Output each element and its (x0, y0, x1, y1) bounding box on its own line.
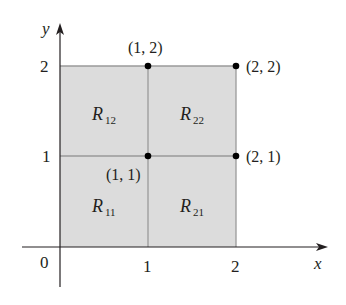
svg-text:21: 21 (193, 206, 204, 218)
origin-label: 0 (40, 253, 49, 272)
x-tick-1: 1 (143, 257, 152, 276)
point-1-2 (145, 63, 152, 70)
point-label-2-2: (2, 2) (246, 58, 281, 76)
svg-text:R: R (179, 104, 191, 124)
double-integral-partition-diagram: y x 0 1 2 1 2 R 12 R 22 R 11 R 21 (1, 2)… (0, 0, 346, 305)
y-tick-1: 1 (42, 147, 51, 166)
svg-text:R: R (91, 104, 103, 124)
x-tick-2: 2 (231, 257, 240, 276)
y-tick-2: 2 (40, 57, 49, 76)
x-axis-label: x (313, 254, 322, 273)
point-2-1 (233, 153, 240, 160)
point-label-1-1: (1, 1) (106, 166, 141, 184)
point-2-2 (233, 63, 240, 70)
svg-text:22: 22 (193, 114, 204, 126)
svg-text:R: R (91, 196, 103, 216)
point-1-1 (145, 153, 152, 160)
y-axis-label: y (40, 19, 50, 38)
svg-text:12: 12 (105, 114, 116, 126)
svg-text:R: R (179, 196, 191, 216)
point-label-1-2: (1, 2) (128, 39, 163, 57)
point-label-2-1: (2, 1) (246, 148, 281, 166)
svg-text:11: 11 (105, 206, 116, 218)
